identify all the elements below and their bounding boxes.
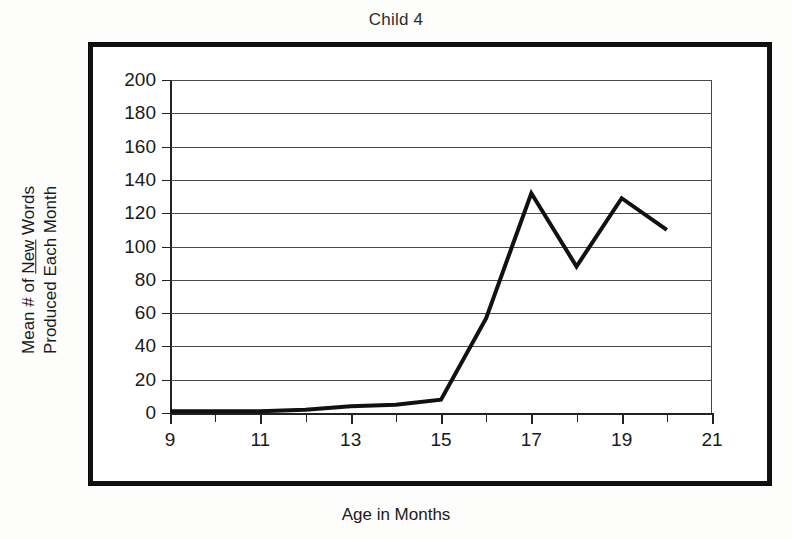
y-axis-title-line2: Produced Each Month bbox=[41, 185, 60, 353]
plot-area: 020406080100120140160180200 911131517192… bbox=[170, 80, 712, 413]
x-tick-13 bbox=[351, 413, 353, 424]
x-tick-label-15: 15 bbox=[430, 429, 451, 451]
x-tick-label-19: 19 bbox=[611, 429, 632, 451]
y-tick-label-0: 0 bbox=[145, 402, 156, 424]
x-tick-19 bbox=[622, 413, 624, 424]
x-tick-label-21: 21 bbox=[701, 429, 722, 451]
y-axis-title-pre: Mean # of bbox=[19, 273, 38, 353]
x-tick-label-13: 13 bbox=[340, 429, 361, 451]
x-tick-12 bbox=[306, 413, 307, 422]
y-tick-label-80: 80 bbox=[135, 269, 156, 291]
y-tick-label-200: 200 bbox=[124, 69, 156, 91]
y-tick-label-140: 140 bbox=[124, 169, 156, 191]
chart-title: Child 4 bbox=[0, 10, 792, 30]
data-series-line bbox=[170, 80, 712, 413]
y-tick-label-100: 100 bbox=[124, 236, 156, 258]
x-axis-title: Age in Months bbox=[0, 505, 792, 525]
x-tick-11 bbox=[260, 413, 262, 424]
x-tick-label-11: 11 bbox=[250, 429, 270, 451]
y-tick-label-40: 40 bbox=[135, 335, 156, 357]
x-tick-17 bbox=[531, 413, 533, 424]
y-axis-title: Mean # of New Words Produced Each Month bbox=[18, 120, 62, 420]
y-axis-title-line1: Mean # of New Words bbox=[19, 186, 38, 354]
chart-figure: Child 4 020406080100120140160180200 9111… bbox=[0, 0, 792, 539]
y-axis-title-underlined: New bbox=[19, 239, 38, 273]
series-polyline bbox=[170, 193, 667, 411]
x-tick-15 bbox=[441, 413, 443, 424]
x-tick-label-17: 17 bbox=[521, 429, 542, 451]
x-tick-10 bbox=[215, 413, 216, 422]
x-tick-label-9: 9 bbox=[165, 429, 176, 451]
y-tick-label-60: 60 bbox=[135, 302, 156, 324]
x-tick-21 bbox=[712, 413, 714, 424]
y-tick-label-160: 160 bbox=[124, 136, 156, 158]
y-axis-title-post: Words bbox=[19, 186, 38, 240]
x-tick-18 bbox=[577, 413, 578, 422]
x-tick-9 bbox=[170, 413, 172, 424]
y-tick-label-20: 20 bbox=[135, 369, 156, 391]
y-tick-label-120: 120 bbox=[124, 202, 156, 224]
x-tick-14 bbox=[396, 413, 397, 422]
y-tick-label-180: 180 bbox=[124, 102, 156, 124]
x-tick-16 bbox=[486, 413, 487, 422]
x-tick-20 bbox=[667, 413, 668, 422]
